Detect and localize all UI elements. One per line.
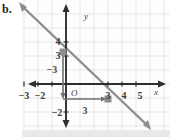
x-tick-label-5: 5 xyxy=(138,90,143,101)
slope-triangle-guides xyxy=(60,52,107,102)
y-axis-arrow-down xyxy=(63,120,70,128)
x-tick-label--3: −3 xyxy=(19,90,30,101)
y-axis-arrow-up xyxy=(63,4,70,12)
rise-label: −3 xyxy=(47,64,58,75)
x-axis-arrow-left xyxy=(28,81,36,88)
y-tick-label--2: −2 xyxy=(52,107,63,118)
y-tick-label-3: 3 xyxy=(56,50,61,61)
x-axis-arrow-right xyxy=(158,81,166,88)
point-upper-marker xyxy=(60,49,67,56)
y-tick-label-4: 4 xyxy=(56,36,61,47)
x-axis-label: x xyxy=(153,87,158,97)
coordinate-graph: −3 −2 3 4 5 4 3 −2 O y x −3 3 xyxy=(0,0,170,137)
x-tick-label-3: 3 xyxy=(106,90,111,101)
figure-container: b. xyxy=(0,0,170,137)
y-axis-label: y xyxy=(83,11,88,21)
origin-label: O xyxy=(71,88,78,98)
x-tick-label--2: −2 xyxy=(35,90,46,101)
grid-lines xyxy=(22,0,170,130)
x-tick-label-4: 4 xyxy=(122,90,127,101)
run-label: 3 xyxy=(83,105,88,116)
